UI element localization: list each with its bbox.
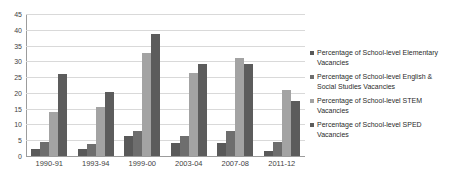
x-axis-tick-labels: 1990-911993-941999-002003-042007-082011-…	[26, 160, 305, 168]
y-axis-tick-label: 10	[14, 121, 22, 128]
legend-swatch-icon	[310, 51, 314, 55]
y-axis-tick-label: 5	[18, 137, 22, 144]
y-axis-tick-label: 20	[14, 89, 22, 96]
bar-group	[26, 14, 73, 156]
bar	[226, 131, 235, 156]
x-axis-tick-label: 1990-91	[26, 160, 73, 168]
x-axis-tick-label: 2003-04	[166, 160, 213, 168]
legend-swatch-icon	[310, 75, 314, 79]
bar	[96, 107, 105, 156]
x-axis-tick-label: 2007-08	[212, 160, 259, 168]
y-axis-tick-label: 15	[14, 105, 22, 112]
legend-swatch-icon	[310, 99, 314, 103]
bar	[105, 92, 114, 156]
chart-legend: Percentage of School-level Elementary Va…	[310, 48, 453, 144]
bar	[58, 74, 67, 156]
legend-label: Percentage of School-level STEM Vacancie…	[317, 96, 453, 115]
legend-label: Percentage of School-level Elementary Va…	[317, 48, 453, 67]
bar	[87, 144, 96, 156]
bar	[180, 136, 189, 156]
y-axis-tick-label: 0	[18, 153, 22, 160]
legend-swatch-icon	[310, 123, 314, 127]
bar	[264, 151, 273, 156]
bar-group	[73, 14, 120, 156]
bar	[171, 143, 180, 156]
bar-groups	[26, 14, 305, 156]
y-axis-tick-label: 40	[14, 26, 22, 33]
bar	[291, 101, 300, 156]
bar-group	[119, 14, 166, 156]
plot-area	[26, 14, 305, 156]
legend-entry[interactable]: Percentage of School-level STEM Vacancie…	[310, 96, 453, 115]
legend-entry[interactable]: Percentage of School-level SPED Vacancie…	[310, 120, 453, 139]
y-axis-tick-label: 30	[14, 58, 22, 65]
bar	[244, 64, 253, 156]
bar-group	[259, 14, 306, 156]
legend-entry[interactable]: Percentage of School-level English & Soc…	[310, 72, 453, 91]
bar	[133, 131, 142, 156]
bar	[40, 142, 49, 157]
y-axis-tick-label: 25	[14, 74, 22, 81]
legend-entry[interactable]: Percentage of School-level Elementary Va…	[310, 48, 453, 67]
y-axis-tick-label: 35	[14, 42, 22, 49]
bar	[282, 90, 291, 156]
bar-group	[166, 14, 213, 156]
bar	[142, 53, 151, 156]
x-axis-tick-label: 1993-94	[73, 160, 120, 168]
bar	[198, 64, 207, 156]
legend-label: Percentage of School-level SPED Vacancie…	[317, 120, 453, 139]
bar	[49, 112, 58, 156]
y-axis-tick-label: 45	[14, 11, 22, 18]
legend-label: Percentage of School-level English & Soc…	[317, 72, 453, 91]
bar	[124, 136, 133, 156]
bar	[78, 149, 87, 156]
bar-group	[212, 14, 259, 156]
y-axis-tick-labels: 051015202530354045	[0, 14, 22, 156]
bar	[151, 34, 160, 156]
bar	[31, 149, 40, 156]
bar	[217, 143, 226, 156]
x-axis-tick-label: 1999-00	[119, 160, 166, 168]
bar	[189, 73, 198, 156]
bar-chart-figure: 051015202530354045 1990-911993-941999-00…	[0, 0, 455, 180]
bar	[273, 142, 282, 156]
axis-baseline	[26, 156, 305, 157]
x-axis-tick-label: 2011-12	[259, 160, 306, 168]
bar	[235, 58, 244, 156]
